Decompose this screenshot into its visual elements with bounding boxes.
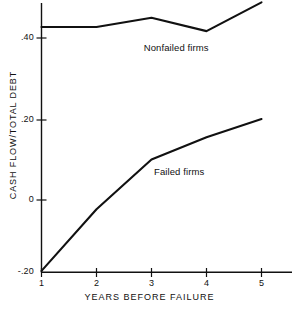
x-tick-label-5: 5 bbox=[254, 278, 270, 288]
series-line-failed bbox=[42, 119, 262, 271]
series-label-failed: Failed firms bbox=[154, 166, 204, 177]
x-axis-title: YEARS BEFORE FAILURE bbox=[0, 292, 299, 302]
y-tick-label-neg020: -.20 bbox=[0, 266, 34, 276]
x-tick-label-4: 4 bbox=[199, 278, 215, 288]
chart-figure: .40 .20 0 -.20 1 2 3 4 5 Nonfailed firms… bbox=[0, 0, 299, 312]
y-axis-title: CASH FLOW/TOTAL DEBT bbox=[8, 30, 18, 240]
x-tick-label-3: 3 bbox=[144, 278, 160, 288]
series-line-nonfailed bbox=[42, 2, 262, 31]
x-tick-label-1: 1 bbox=[34, 278, 50, 288]
series-label-nonfailed: Nonfailed firms bbox=[144, 42, 209, 53]
x-tick-label-2: 2 bbox=[89, 278, 105, 288]
